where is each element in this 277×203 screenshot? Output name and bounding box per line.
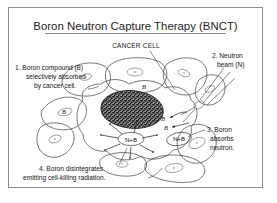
capture-node-right-label: N+B — [173, 135, 185, 142]
callout-step-2: 2. Neutron beam (N) — [212, 52, 244, 69]
cancer-cell-label: CANCER CELL — [112, 42, 160, 49]
step1-line2: selectively absorbed — [26, 73, 86, 81]
figure-frame: Boron Neutron Capture Therapy (BNCT) — [8, 7, 263, 188]
step4-line1: 4. Boron disintegrates — [39, 165, 104, 173]
page-title: Boron Neutron Capture Therapy (BNCT) — [33, 20, 237, 32]
figure-root: Boron Neutron Capture Therapy (BNCT) — [0, 0, 277, 203]
step1-line1: 1. Boron compound (B) — [15, 64, 83, 72]
normal-cell-lower-left — [37, 123, 74, 157]
step1-line3: by cancer cell. — [34, 82, 76, 90]
neutron-entry-node — [193, 99, 206, 110]
cancer-cell-nucleus — [101, 90, 163, 128]
boron-label-in-cell: B — [142, 83, 146, 90]
capture-node-right: N+B — [166, 131, 193, 148]
boron-pointer-arrows — [170, 112, 189, 127]
normal-cell-top-right — [163, 58, 207, 95]
cancer-cell: B — [77, 80, 197, 160]
step2-line2: beam (N) — [217, 61, 244, 69]
step4-line2: emitting cell-killing radiation. — [23, 174, 106, 182]
boron-label-left-cell: B — [62, 108, 66, 115]
boron-label-right-1: B — [161, 115, 165, 122]
callout-step-4: 4. Boron disintegrates emitting cell-kil… — [23, 148, 162, 182]
capture-node-left-label: N+B — [125, 136, 137, 143]
boron-label-right-2: B — [164, 124, 168, 131]
step3-line3: neutron. — [210, 144, 234, 151]
bnct-diagram: Boron Neutron Capture Therapy (BNCT) — [9, 8, 262, 187]
step2-line1: 2. Neutron — [212, 52, 243, 59]
step3-line1: 3. Boron — [207, 126, 232, 133]
step3-line2: absorbs — [210, 135, 234, 142]
